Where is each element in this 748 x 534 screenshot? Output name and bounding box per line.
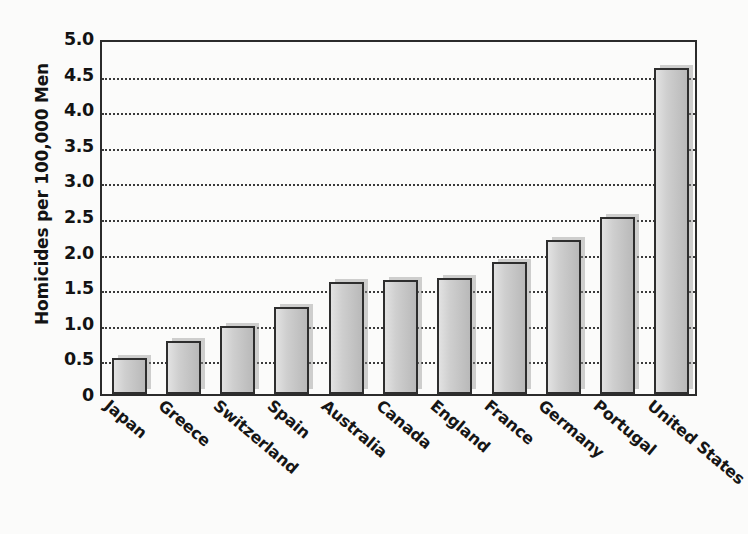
x-axis-tick-labels: JapanGreeceSwitzerlandSpainAustraliaCana…	[100, 396, 697, 534]
bar	[383, 280, 418, 394]
y-tick-label: 2.5	[42, 209, 94, 227]
y-tick-label: 0.5	[42, 351, 94, 369]
bar	[437, 278, 472, 394]
x-tick-label: Japan	[101, 396, 151, 442]
y-axis-tick-labels: 00.51.01.52.02.53.03.54.04.55.0	[36, 0, 94, 534]
y-tick-label: 1.0	[42, 316, 94, 334]
bar	[220, 326, 255, 394]
y-tick-label: 4.5	[42, 67, 94, 85]
bar	[329, 282, 364, 394]
y-tick-label: 0	[42, 387, 94, 405]
x-tick-label: United States	[644, 396, 748, 488]
bar	[166, 341, 201, 394]
y-tick-label: 1.5	[42, 280, 94, 298]
bar	[492, 262, 527, 394]
x-tick-label: Spain	[264, 396, 314, 442]
bar	[600, 217, 635, 394]
y-tick-label: 3.5	[42, 138, 94, 156]
y-tick-label: 2.0	[42, 245, 94, 263]
bar	[546, 240, 581, 395]
bars-group	[102, 42, 695, 394]
bar	[274, 307, 309, 394]
plot-area	[100, 40, 697, 396]
bar	[654, 68, 689, 394]
y-tick-label: 5.0	[42, 31, 94, 49]
y-tick-label: 3.0	[42, 173, 94, 191]
x-tick-label: Greece	[155, 396, 215, 450]
x-tick-label: England	[427, 396, 494, 457]
y-tick-label: 4.0	[42, 102, 94, 120]
bar	[112, 358, 147, 394]
